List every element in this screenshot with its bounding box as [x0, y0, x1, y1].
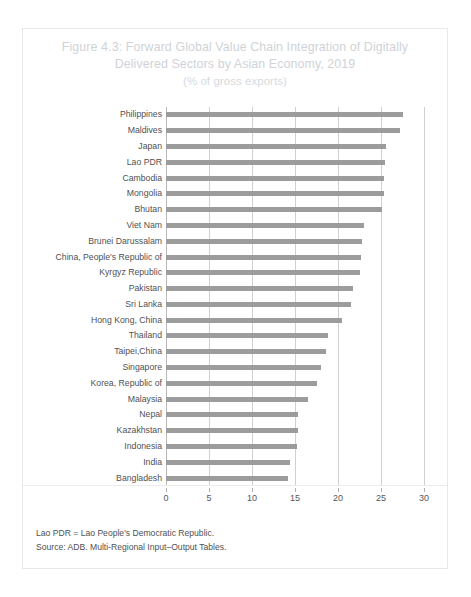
category-label: Maldives — [128, 126, 162, 135]
bar — [166, 128, 400, 133]
category-label: Viet Nam — [126, 221, 162, 230]
bar — [166, 460, 290, 465]
category-axis: PhilippinesMaldivesJapanLao PDRCambodiaM… — [23, 107, 166, 486]
category-label: Sri Lanka — [125, 300, 162, 309]
category-label: Singapore — [122, 363, 162, 372]
tick-mark-5 — [209, 488, 210, 492]
category-label: Thailand — [129, 331, 162, 340]
bar — [166, 286, 353, 291]
category-label: Malaysia — [128, 395, 162, 404]
tick-label-0: 0 — [163, 493, 168, 503]
bar — [166, 207, 382, 212]
category-label: Bhutan — [134, 205, 162, 214]
tick-label-5: 5 — [206, 493, 211, 503]
bar — [166, 444, 297, 449]
category-label: India — [143, 458, 162, 467]
category-label: Taipei,China — [114, 347, 162, 356]
category-label: Philippines — [120, 110, 162, 119]
tick-label-25: 25 — [376, 493, 386, 503]
bar — [166, 112, 403, 117]
tick-label-10: 10 — [247, 493, 257, 503]
footnote-abbreviation: Lao PDR = Lao People's Democratic Republ… — [36, 526, 436, 540]
bar — [166, 239, 362, 244]
bar — [166, 428, 298, 433]
title-subtitle: (% of gross exports) — [23, 73, 447, 90]
tick-mark-30 — [424, 488, 425, 492]
tick-mark-10 — [252, 488, 253, 492]
bar — [166, 144, 386, 149]
bar — [166, 349, 326, 354]
footer-divider — [23, 485, 447, 486]
category-label: China, People's Republic of — [56, 253, 162, 262]
gridline-30 — [424, 107, 425, 486]
figure-frame: Figure 4.3: Forward Global Value Chain I… — [22, 28, 448, 569]
value-axis: 051015202530 — [166, 488, 424, 506]
bar — [166, 318, 342, 323]
category-label: Mongolia — [127, 189, 162, 198]
bar — [166, 270, 360, 275]
bar — [166, 381, 317, 386]
figure-title: Figure 4.3: Forward Global Value Chain I… — [23, 39, 447, 90]
bar — [166, 397, 308, 402]
category-label: Bangladesh — [116, 474, 162, 483]
category-label: Kyrgyz Republic — [99, 268, 162, 277]
category-label: Hong Kong, China — [91, 316, 162, 325]
bar — [166, 476, 288, 481]
category-label: Indonesia — [124, 442, 162, 451]
bar — [166, 412, 298, 417]
footnote-source: Source: ADB. Multi-Regional Input–Output… — [36, 540, 436, 554]
category-label: Pakistan — [129, 284, 162, 293]
title-line-2: Delivered Sectors by Asian Economy, 2019 — [23, 56, 447, 73]
bar — [166, 333, 328, 338]
bar — [166, 302, 351, 307]
bar — [166, 255, 361, 260]
bar — [166, 160, 385, 165]
bar — [166, 223, 364, 228]
category-label: Japan — [138, 142, 162, 151]
tick-label-20: 20 — [333, 493, 343, 503]
category-label: Brunei Darussalam — [88, 237, 162, 246]
bars-region — [166, 107, 424, 486]
bar — [166, 365, 321, 370]
bar — [166, 191, 384, 196]
category-label: Kazakhstan — [117, 426, 162, 435]
tick-label-30: 30 — [419, 493, 429, 503]
category-label: Korea, Republic of — [91, 379, 162, 388]
figure-footer: Lao PDR = Lao People's Democratic Republ… — [36, 526, 436, 554]
category-label: Lao PDR — [127, 158, 162, 167]
tick-label-15: 15 — [290, 493, 300, 503]
bar — [166, 176, 384, 181]
tick-mark-25 — [381, 488, 382, 492]
category-label: Nepal — [139, 410, 162, 419]
tick-mark-20 — [338, 488, 339, 492]
category-label: Cambodia — [122, 174, 162, 183]
plot-area: PhilippinesMaldivesJapanLao PDRCambodiaM… — [23, 107, 449, 509]
tick-mark-0 — [166, 488, 167, 492]
title-line-1: Figure 4.3: Forward Global Value Chain I… — [23, 39, 447, 56]
tick-mark-15 — [295, 488, 296, 492]
